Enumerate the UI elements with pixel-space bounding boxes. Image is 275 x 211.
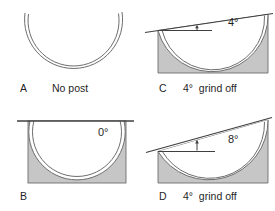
panel-d: 8° D 4° grind off: [146, 118, 272, 203]
cup-grind-diagram: A No post 0° B 4° C 4° grind off: [0, 0, 275, 211]
panel-a-caption: No post: [52, 82, 88, 94]
panel-a: A No post: [20, 12, 123, 94]
panel-a-letter: A: [20, 82, 27, 94]
cup-inner-rim-a: [28, 14, 119, 66]
panel-c: 4° C 4° grind off: [145, 14, 273, 95]
panel-c-caption: 4° grind off: [183, 82, 237, 94]
panel-c-letter: C: [159, 82, 167, 94]
panel-b-letter: B: [20, 190, 27, 202]
panel-b: 0° B: [17, 121, 134, 202]
figure-canvas: A No post 0° B 4° C 4° grind off: [0, 0, 275, 211]
cup-outer-rim-a: [25, 12, 123, 68]
panel-d-caption: 4° grind off: [183, 190, 237, 202]
angle-label-b: 0°: [98, 126, 109, 138]
angle-label-d: 8°: [228, 133, 239, 145]
panel-d-letter: D: [159, 190, 167, 202]
angle-label-c: 4°: [228, 16, 239, 28]
